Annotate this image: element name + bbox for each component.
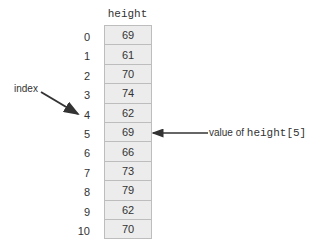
- index-arrow-icon: [41, 92, 78, 114]
- annotation-arrows: [0, 0, 317, 251]
